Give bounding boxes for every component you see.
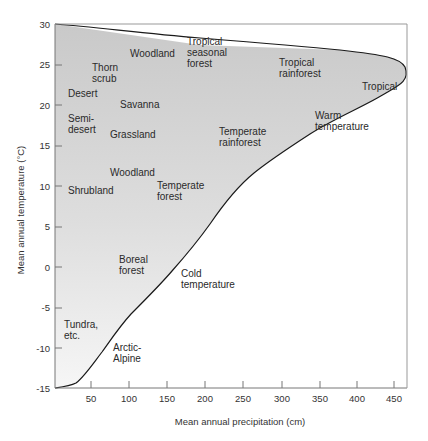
x-tick-150: 150 bbox=[159, 393, 175, 404]
label-tropical-zone: Tropical bbox=[362, 81, 397, 92]
biome-chart: 30 25 20 15 10 5 0 -5 -10 -15 50 100 150… bbox=[0, 0, 428, 441]
y-tick-10: 10 bbox=[39, 181, 50, 192]
y-tick-20: 20 bbox=[39, 100, 50, 111]
label-woodland-mid: Woodland bbox=[110, 167, 155, 178]
label-warm-temperature-2: temperature bbox=[315, 121, 369, 132]
label-warm-temperature-1: Warm bbox=[315, 110, 341, 121]
x-tick-50: 50 bbox=[86, 393, 97, 404]
x-axis-title: Mean annual precipitation (cm) bbox=[175, 416, 305, 427]
label-tropical-rainforest-1: Tropical bbox=[279, 57, 314, 68]
label-cold-temperature-2: temperature bbox=[181, 279, 235, 290]
label-tundra-1: Tundra, bbox=[64, 319, 98, 330]
x-tick-250: 250 bbox=[235, 393, 251, 404]
x-tick-400: 400 bbox=[349, 393, 365, 404]
x-tick-350: 350 bbox=[312, 393, 328, 404]
label-arctic-alpine-2: Alpine bbox=[113, 353, 141, 364]
y-tick-30: 30 bbox=[39, 19, 50, 30]
label-thorn-scrub-1: Thorn bbox=[92, 62, 118, 73]
label-temperate-rainforest-1: Temperate bbox=[219, 126, 267, 137]
x-tick-450: 450 bbox=[386, 393, 402, 404]
y-tick-0: 0 bbox=[45, 262, 50, 273]
label-cold-temperature-1: Cold bbox=[181, 268, 202, 279]
x-tick-300: 300 bbox=[274, 393, 290, 404]
label-tropical-seasonal-forest-1: Tropical bbox=[187, 36, 222, 47]
label-arctic-alpine-1: Arctic- bbox=[113, 342, 141, 353]
label-woodland-top: Woodland bbox=[130, 48, 175, 59]
y-tick-5: 5 bbox=[45, 221, 50, 232]
y-tick-15: 15 bbox=[39, 140, 50, 151]
label-boreal-forest-1: Boreal bbox=[119, 254, 148, 265]
y-tick-neg10: -10 bbox=[36, 343, 50, 354]
y-tick-neg15: -15 bbox=[36, 383, 50, 394]
x-tick-200: 200 bbox=[197, 393, 213, 404]
y-axis-title: Mean annual temperature (°C) bbox=[15, 146, 26, 274]
label-semi-desert-2: desert bbox=[68, 124, 96, 135]
label-grassland: Grassland bbox=[110, 129, 156, 140]
label-temperate-forest-1: Temperate bbox=[157, 180, 205, 191]
x-tick-labels: 50 100 150 200 250 300 350 400 450 bbox=[86, 393, 402, 404]
label-shrubland: Shrubland bbox=[68, 185, 114, 196]
x-tick-100: 100 bbox=[121, 393, 137, 404]
y-tick-labels: 30 25 20 15 10 5 0 -5 -10 -15 bbox=[36, 19, 50, 394]
label-thorn-scrub-2: scrub bbox=[92, 73, 117, 84]
label-savanna: Savanna bbox=[120, 99, 160, 110]
label-temperate-rainforest-2: rainforest bbox=[219, 137, 261, 148]
label-temperate-forest-2: forest bbox=[157, 191, 182, 202]
label-tropical-rainforest-2: rainforest bbox=[279, 68, 321, 79]
y-tick-neg5: -5 bbox=[42, 302, 50, 313]
label-semi-desert-1: Semi- bbox=[68, 113, 94, 124]
label-boreal-forest-2: forest bbox=[119, 265, 144, 276]
y-tick-25: 25 bbox=[39, 59, 50, 70]
label-tropical-seasonal-forest-3: forest bbox=[187, 58, 212, 69]
label-tropical-seasonal-forest-2: seasonal bbox=[187, 47, 227, 58]
label-desert: Desert bbox=[68, 88, 98, 99]
x-ticks bbox=[91, 381, 394, 388]
label-tundra-2: etc. bbox=[64, 330, 80, 341]
